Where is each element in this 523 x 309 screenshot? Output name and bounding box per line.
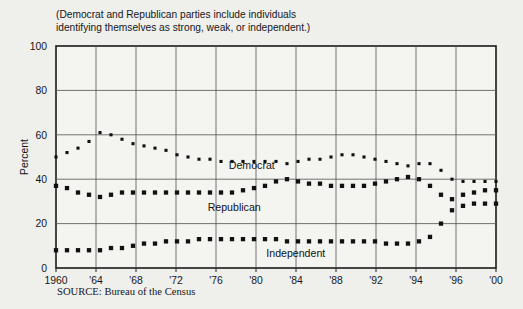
data-marker [76, 248, 80, 252]
plot-area-background [56, 46, 496, 268]
data-marker [285, 177, 289, 181]
series-label-republican: Republican [208, 201, 261, 213]
data-marker [186, 155, 189, 158]
data-marker [362, 155, 365, 158]
data-marker [120, 190, 124, 194]
x-axis-tick-label: '84 [289, 275, 303, 286]
data-marker [175, 153, 178, 156]
data-marker [296, 239, 300, 243]
data-marker [142, 241, 146, 245]
data-marker [472, 201, 476, 205]
data-marker [87, 193, 91, 197]
data-marker [461, 180, 464, 183]
data-marker [98, 248, 102, 252]
data-marker [373, 158, 376, 161]
data-marker [241, 188, 245, 192]
data-marker [472, 180, 475, 183]
data-marker [241, 237, 245, 241]
data-marker [318, 181, 322, 185]
chart-figure: (Democrat and Republican parties include… [0, 0, 523, 309]
data-marker [406, 175, 410, 179]
series-label-independent: Independent [266, 247, 325, 259]
data-marker [274, 179, 278, 183]
data-marker [252, 237, 256, 241]
x-axis-tick-label: '76 [209, 275, 223, 286]
data-marker [208, 158, 211, 161]
x-axis-tick-label: '94 [409, 275, 423, 286]
data-marker [406, 241, 410, 245]
data-marker [54, 248, 58, 252]
data-marker [219, 160, 222, 163]
data-marker [472, 190, 476, 194]
data-marker [384, 179, 388, 183]
data-marker [450, 197, 454, 201]
chart-subtitle-line-1: (Democrat and Republican parties include… [56, 9, 296, 20]
data-marker [340, 184, 344, 188]
data-marker [98, 195, 102, 199]
data-marker [65, 151, 68, 154]
y-axis-title: Percent [19, 139, 30, 175]
data-marker [483, 188, 487, 192]
data-marker [329, 239, 333, 243]
data-marker [406, 164, 409, 167]
data-marker [384, 241, 388, 245]
data-marker [219, 190, 223, 194]
data-marker [428, 235, 432, 239]
source-note: SOURCE: Bureau of the Census [57, 286, 195, 297]
data-marker [461, 204, 465, 208]
data-marker [351, 184, 355, 188]
x-axis-tick-label: '72 [169, 275, 183, 286]
data-marker [351, 239, 355, 243]
data-marker [131, 244, 135, 248]
data-marker [296, 179, 300, 183]
data-marker [384, 160, 387, 163]
data-marker [131, 142, 134, 145]
data-marker [274, 160, 277, 163]
x-axis-tick-label: '88 [329, 275, 343, 286]
data-marker [186, 239, 190, 243]
data-marker [285, 239, 289, 243]
data-marker [483, 201, 487, 205]
data-marker [296, 160, 299, 163]
data-marker [65, 186, 69, 190]
data-marker [494, 188, 498, 192]
data-marker [87, 248, 91, 252]
data-marker [65, 248, 69, 252]
data-marker [373, 181, 377, 185]
data-marker [186, 190, 190, 194]
data-marker [109, 246, 113, 250]
data-marker [461, 193, 465, 197]
series-label-democrat: Democrat [229, 159, 275, 171]
x-axis-tick-label: '00 [489, 275, 503, 286]
x-axis-tick-label: '92 [369, 275, 383, 286]
data-marker [164, 239, 168, 243]
data-marker [428, 184, 432, 188]
y-axis-tick-label: 20 [35, 218, 47, 229]
y-axis-tick-label: 60 [35, 130, 47, 141]
data-marker [230, 237, 234, 241]
data-marker [329, 184, 333, 188]
data-marker [373, 239, 377, 243]
data-marker [175, 239, 179, 243]
data-marker [175, 190, 179, 194]
data-marker [340, 153, 343, 156]
data-marker [395, 241, 399, 245]
data-marker [483, 180, 486, 183]
x-axis-tick-label: '80 [249, 275, 263, 286]
data-marker [285, 162, 288, 165]
data-marker [142, 190, 146, 194]
data-marker [197, 158, 200, 161]
data-marker [428, 162, 431, 165]
data-marker [76, 147, 79, 150]
data-marker [252, 186, 256, 190]
data-marker [307, 158, 310, 161]
data-marker [307, 239, 311, 243]
data-marker [263, 237, 267, 241]
data-marker [142, 144, 145, 147]
x-axis-tick-label: 1960 [44, 275, 67, 286]
data-marker [494, 201, 498, 205]
data-marker [351, 153, 354, 156]
data-marker [109, 133, 112, 136]
data-marker [362, 239, 366, 243]
chart-subtitle-line-2: identifying themselves as strong, weak, … [56, 22, 310, 33]
